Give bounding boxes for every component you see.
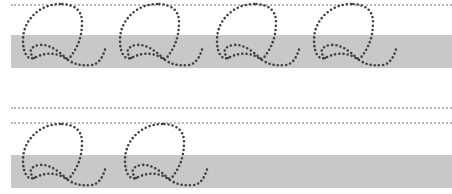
dotted-letter-q-icon <box>214 2 304 70</box>
dotted-letter-q-icon <box>311 2 401 70</box>
dotted-letter-q-icon <box>122 122 212 190</box>
dotted-letter-q-icon <box>20 2 110 70</box>
separator-guide-line <box>11 107 452 109</box>
dotted-letter-q-icon <box>20 122 110 190</box>
dotted-letter-q-icon <box>117 2 207 70</box>
